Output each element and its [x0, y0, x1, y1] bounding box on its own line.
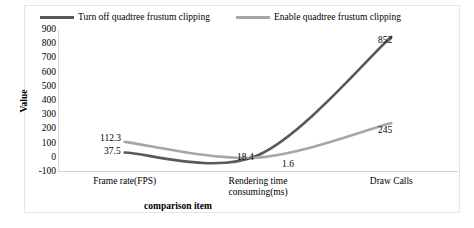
- y-tick-0: 0: [24, 152, 56, 162]
- y-tick-minus-100: -100: [24, 166, 56, 176]
- data-label-series-1-cat-0: 112.3: [100, 133, 121, 143]
- x-axis-title: comparison item: [58, 201, 298, 211]
- x-label-rendering-time: Rendering time consuming(ms): [191, 176, 324, 202]
- legend-swatch-icon-series-1: [236, 16, 270, 19]
- legend-item-enable[interactable]: Enable quadtree frustum clipping: [236, 12, 401, 23]
- line-chart: Turn off quadtree frustum clipping Enabl…: [0, 0, 474, 228]
- line-series-enable: [125, 123, 392, 158]
- y-axis-title: Value: [19, 71, 29, 131]
- data-label-series-0-cat-1: 18.4: [237, 152, 254, 162]
- data-label-series-1-cat-1: 1.6: [282, 159, 294, 169]
- chart-legend: Turn off quadtree frustum clipping Enabl…: [40, 11, 460, 27]
- data-label-series-0-cat-0: 37.5: [104, 146, 121, 156]
- y-tick-100: 100: [24, 138, 56, 148]
- x-label-frame-rate: Frame rate(FPS): [58, 176, 191, 202]
- legend-item-turn-off[interactable]: Turn off quadtree frustum clipping: [40, 12, 210, 23]
- x-label-draw-calls: Draw Calls: [325, 176, 458, 202]
- line-series-turn-off: [125, 37, 392, 163]
- data-label-series-1-cat-2: 245: [378, 125, 392, 135]
- legend-label-series-0: Turn off quadtree frustum clipping: [78, 12, 210, 23]
- x-label-rendering-time-line-0: Rendering time: [191, 176, 324, 187]
- legend-swatch-icon-series-0: [40, 16, 74, 19]
- x-label-frame-rate-line-0: Frame rate(FPS): [58, 176, 191, 187]
- x-axis-tick-labels: Frame rate(FPS) Rendering time consuming…: [58, 176, 458, 202]
- y-tick-800: 800: [24, 38, 56, 48]
- y-tick-900: 900: [24, 24, 56, 34]
- data-label-series-0-cat-2: 852: [378, 35, 392, 45]
- legend-label-series-1: Enable quadtree frustum clipping: [274, 12, 401, 23]
- y-tick-700: 700: [24, 52, 56, 62]
- x-label-rendering-time-line-1: consuming(ms): [191, 187, 324, 198]
- x-label-draw-calls-line-0: Draw Calls: [325, 176, 458, 187]
